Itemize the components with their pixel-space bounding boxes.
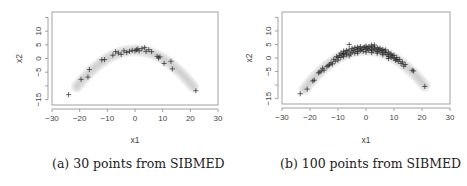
y-axis-label: x2 [244,53,254,62]
y-axis-label: x2 [14,54,24,63]
panel-b-scatter: −30−20−100102030x1−15−50510x2 [230,0,464,150]
svg-text:−15: −15 [34,92,43,106]
svg-text:10: 10 [390,113,399,122]
svg-text:20: 20 [418,113,427,122]
svg-text:0: 0 [364,113,369,122]
svg-text:−20: −20 [303,113,317,122]
panel-a-scatter: −30−20−100102030x1−15−50510x2 [0,0,234,150]
y-axis: −15−50510 [34,17,48,106]
x-axis: −30−20−100102030 [275,108,455,122]
svg-text:10: 10 [34,26,43,35]
scatter-plot-a: −30−20−100102030x1−15−50510x2 [0,0,234,150]
caption-b: (b) 100 points from SIBMED [280,156,461,171]
svg-text:0: 0 [133,114,138,123]
caption-a: (a) 30 points from SIBMED [52,156,225,171]
scatter-plot-b: −30−20−100102030x1−15−50510x2 [230,0,467,150]
svg-text:−5: −5 [264,66,273,76]
svg-text:−15: −15 [264,91,273,105]
y-axis: −15−50510 [264,17,278,105]
svg-text:−30: −30 [45,114,59,123]
svg-text:−20: −20 [73,114,87,123]
density-band [77,50,193,86]
svg-text:10: 10 [158,114,167,123]
svg-text:20: 20 [186,114,195,123]
svg-text:30: 30 [214,114,223,123]
svg-text:30: 30 [446,113,455,122]
svg-text:10: 10 [264,26,273,35]
x-axis-label: x1 [362,135,371,145]
svg-text:−10: −10 [101,114,115,123]
svg-text:0: 0 [34,56,43,61]
svg-text:−30: −30 [275,113,289,122]
svg-text:5: 5 [264,42,273,47]
svg-text:−10: −10 [331,113,345,122]
x-axis: −30−20−100102030 [45,109,223,123]
svg-text:0: 0 [264,55,273,60]
x-axis-label: x1 [131,135,140,145]
svg-text:−5: −5 [34,67,43,77]
svg-text:5: 5 [34,42,43,47]
